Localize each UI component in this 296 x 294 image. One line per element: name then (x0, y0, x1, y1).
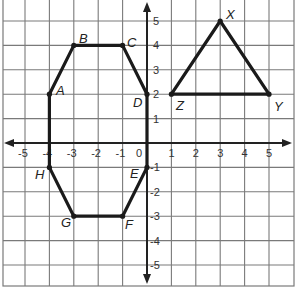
y-tick-label: -2 (150, 186, 160, 198)
x-tick-label: 2 (193, 147, 199, 159)
label-Y: Y (274, 99, 284, 114)
x-tick-label: -5 (18, 147, 28, 159)
x-tick-label: 3 (217, 147, 223, 159)
x-tick-label: -2 (91, 147, 101, 159)
y-tick-label: -1 (150, 161, 160, 173)
vertex-point-B (71, 43, 76, 48)
vertex-point-X (218, 18, 223, 23)
x-axis-arrow-left-icon (4, 139, 14, 147)
y-tick-label: 4 (153, 39, 159, 51)
y-tick-label: 2 (153, 88, 159, 100)
vertex-point-G (71, 214, 76, 219)
x-tick-label: 5 (266, 147, 272, 159)
vertex-point-Z (169, 92, 174, 97)
x-tick-label: -3 (67, 147, 77, 159)
x-tick-label: -1 (116, 147, 126, 159)
label-X: X (225, 7, 236, 22)
y-tick-label: -4 (150, 235, 160, 247)
y-tick-label: -5 (150, 259, 160, 271)
vertex-point-A (47, 92, 52, 97)
label-A: A (55, 83, 65, 98)
label-D: D (133, 95, 142, 110)
y-tick-label: -3 (150, 210, 160, 222)
x-axis-arrow-right-icon (282, 139, 292, 147)
x-tick-label: 0 (136, 147, 142, 159)
label-C: C (127, 35, 137, 50)
vertex-point-H (47, 165, 52, 170)
label-G: G (61, 215, 71, 230)
y-tick-label: 5 (153, 15, 159, 27)
vertex-point-D (144, 92, 149, 97)
vertex-point-Y (266, 92, 271, 97)
label-B: B (79, 31, 88, 46)
label-H: H (35, 167, 45, 182)
label-F: F (125, 217, 134, 232)
y-axis-arrow-down-icon (143, 274, 151, 284)
x-tick-label: 4 (242, 147, 248, 159)
point-labels: A B C D E F G H X Y Z (35, 7, 284, 232)
vertex-point-C (120, 43, 125, 48)
y-tick-label: 3 (153, 64, 159, 76)
y-axis-arrow-up-icon (143, 2, 151, 12)
x-tick-label: 1 (168, 147, 174, 159)
label-E: E (130, 166, 139, 181)
coordinate-grid: -5-4-3-2-101234554321-1-2-3-4-5 A B C D … (0, 0, 296, 294)
vertex-point-E (144, 165, 149, 170)
y-tick-label: 1 (153, 113, 159, 125)
label-Z: Z (175, 98, 185, 113)
